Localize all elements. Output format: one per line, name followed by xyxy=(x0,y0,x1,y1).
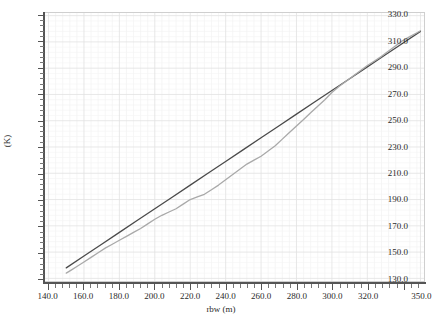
x-tick-minor xyxy=(126,284,127,288)
x-tick-minor xyxy=(375,284,376,288)
y-tick-label: 250.0 xyxy=(388,116,408,125)
x-tick-label: 300.0 xyxy=(322,292,342,301)
x-tick-major xyxy=(119,284,120,290)
y-tick-label: 130.0 xyxy=(388,275,408,284)
x-tick-minor xyxy=(147,284,148,288)
x-tick-minor xyxy=(361,284,362,288)
x-tick-major xyxy=(261,284,262,290)
x-tick-minor xyxy=(204,284,205,288)
y-tick-label: 270.0 xyxy=(388,90,408,99)
x-tick-minor xyxy=(197,284,198,288)
x-tick-minor xyxy=(290,284,291,288)
x-tick-minor xyxy=(140,284,141,288)
y-tick-label: 330.0 xyxy=(388,10,408,19)
x-tick-minor xyxy=(389,284,390,288)
y-tick-label: 310.0 xyxy=(388,37,408,46)
x-tick-label: 200.0 xyxy=(144,292,164,301)
x-tick-label: 240.0 xyxy=(215,292,235,301)
x-tick-major xyxy=(83,284,84,290)
x-tick-major xyxy=(297,284,298,290)
x-tick-label: 220.0 xyxy=(180,292,200,301)
x-tick-minor xyxy=(55,284,56,288)
x-tick-major xyxy=(154,284,155,290)
x-tick-label: 260.0 xyxy=(251,292,271,301)
x-tick-minor xyxy=(283,284,284,288)
y-tick-label: 210.0 xyxy=(388,169,408,178)
x-tick-major xyxy=(368,284,369,290)
x-axis-title: rbw (m) xyxy=(0,304,442,314)
x-tick-major xyxy=(190,284,191,290)
x-tick-label: 280.0 xyxy=(287,292,307,301)
plot-area xyxy=(44,12,425,282)
x-tick-minor xyxy=(382,284,383,288)
series-reference-line xyxy=(66,31,420,267)
x-tick-minor xyxy=(325,284,326,288)
x-tick-minor xyxy=(304,284,305,288)
x-tick-label: 320.0 xyxy=(358,292,378,301)
x-tick-minor xyxy=(183,284,184,288)
y-tick-label: 290.0 xyxy=(388,63,408,72)
x-tick-minor xyxy=(318,284,319,288)
y-axis-spine xyxy=(43,12,45,283)
x-tick-minor xyxy=(247,284,248,288)
x-tick-minor xyxy=(397,284,398,288)
x-tick-minor xyxy=(105,284,106,288)
x-tick-minor xyxy=(69,284,70,288)
x-tick-minor xyxy=(219,284,220,288)
x-tick-minor xyxy=(418,284,419,288)
x-tick-label: 160.0 xyxy=(73,292,93,301)
x-tick-label: 140.0 xyxy=(37,292,57,301)
y-tick-label: 150.0 xyxy=(388,248,408,257)
x-tick-major xyxy=(226,284,227,290)
y-tick-label: 230.0 xyxy=(388,143,408,152)
x-tick-minor xyxy=(340,284,341,288)
x-tick-minor xyxy=(311,284,312,288)
x-tick-label: 350.0 xyxy=(411,292,431,301)
x-tick-minor xyxy=(211,284,212,288)
y-tick-label: 170.0 xyxy=(388,222,408,231)
y-axis-title: (K) xyxy=(2,126,12,156)
x-tick-minor xyxy=(268,284,269,288)
x-tick-minor xyxy=(76,284,77,288)
x-tick-minor xyxy=(354,284,355,288)
x-tick-minor xyxy=(176,284,177,288)
y-tick-label: 190.0 xyxy=(388,195,408,204)
x-tick-minor xyxy=(275,284,276,288)
chart-container: 130.0150.0170.0190.0210.0230.0250.0270.0… xyxy=(0,0,442,320)
x-tick-label: 180.0 xyxy=(109,292,129,301)
x-tick-minor xyxy=(90,284,91,288)
x-tick-major xyxy=(48,284,49,290)
x-tick-minor xyxy=(112,284,113,288)
x-tick-minor xyxy=(62,284,63,288)
x-tick-minor xyxy=(162,284,163,288)
x-tick-major xyxy=(332,284,333,290)
x-tick-minor xyxy=(169,284,170,288)
x-tick-minor xyxy=(240,284,241,288)
x-tick-minor xyxy=(254,284,255,288)
x-axis-spine xyxy=(43,282,426,284)
x-tick-minor xyxy=(233,284,234,288)
x-tick-minor xyxy=(97,284,98,288)
x-tick-minor xyxy=(411,284,412,288)
data-series-layer xyxy=(45,13,424,281)
x-tick-minor xyxy=(347,284,348,288)
x-tick-major xyxy=(404,284,405,290)
x-tick-minor xyxy=(133,284,134,288)
